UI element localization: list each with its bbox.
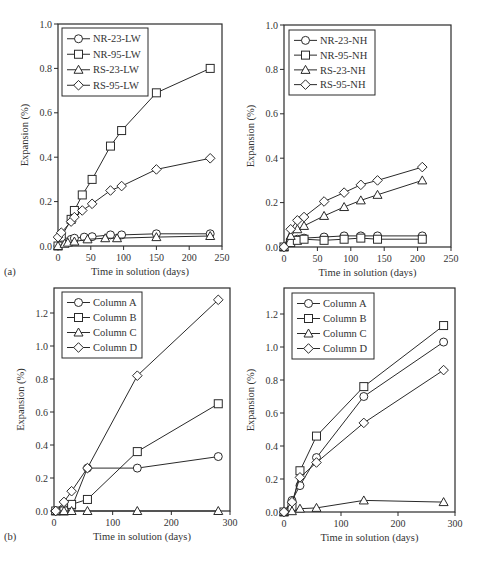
circle-marker-icon — [302, 36, 310, 44]
triangle-marker-icon — [300, 221, 309, 229]
y-tick-label: 0.0 — [266, 242, 279, 253]
y-tick-label: 0.2 — [266, 197, 279, 208]
diamond-marker-icon — [87, 199, 97, 209]
circle-marker-icon — [75, 299, 83, 307]
legend-label: Column A — [93, 297, 137, 308]
x-tick-label: 50 — [312, 253, 322, 264]
diamond-marker-icon — [339, 188, 349, 198]
y-tick-label: 0.8 — [40, 63, 53, 74]
x-tick-label: 150 — [377, 253, 392, 264]
legend-label: Column A — [323, 298, 367, 309]
x-tick-label: 100 — [343, 253, 358, 264]
square-marker-icon — [78, 191, 86, 199]
x-tick-label: 300 — [448, 518, 463, 529]
y-tick-label: 0.2 — [36, 473, 49, 484]
figure: 0.00.20.40.60.81.0050100150200250Time in… — [0, 0, 477, 563]
circle-marker-icon — [360, 393, 368, 401]
diamond-marker-icon — [319, 197, 329, 207]
legend-label: RS-95-LW — [93, 80, 139, 91]
y-tick-label: 0.0 — [40, 241, 53, 252]
y-tick-label: 0.4 — [266, 441, 279, 452]
x-axis-title: Time in solution (days) — [321, 532, 419, 544]
x-tick-label: 50 — [86, 252, 96, 263]
y-tick-label: 0.0 — [266, 507, 279, 518]
diamond-marker-icon — [83, 463, 93, 473]
triangle-marker-icon — [320, 211, 329, 219]
y-axis-title: Expansion (%) — [245, 104, 257, 167]
diamond-marker-icon — [356, 180, 366, 190]
legend-label: Column D — [323, 343, 367, 354]
y-tick-label: 0.6 — [266, 408, 279, 419]
diamond-marker-icon — [152, 165, 162, 175]
legend-label: NR-95-LW — [93, 49, 141, 60]
y-tick-label: 1.2 — [36, 308, 49, 319]
chart-panel-b-left: 0.00.20.40.60.81.01.20100200300Time in s… — [4, 288, 238, 543]
legend-label: RS-23-NH — [320, 65, 366, 76]
diamond-marker-icon — [373, 176, 383, 186]
square-marker-icon — [300, 235, 308, 243]
series-line-column-b — [56, 404, 219, 511]
x-axis-title: Time in solution (days) — [91, 266, 189, 278]
y-tick-label: 1.0 — [36, 341, 49, 352]
diamond-marker-icon — [117, 181, 127, 191]
chart-panel-a-left: 0.00.20.40.60.81.0050100150200250Time in… — [4, 19, 230, 279]
x-tick-label: 100 — [105, 517, 120, 528]
chart-panel-b-right: 0.00.20.40.60.81.01.20100200300Time in s… — [245, 288, 463, 544]
x-tick-label: 200 — [164, 517, 179, 528]
y-tick-label: 0.4 — [36, 440, 49, 451]
circle-marker-icon — [75, 35, 83, 43]
x-tick-label: 200 — [410, 253, 425, 264]
circle-marker-icon — [214, 453, 222, 461]
circle-marker-icon — [305, 300, 313, 308]
square-marker-icon — [214, 400, 222, 408]
y-tick-label: 0.6 — [40, 107, 53, 118]
triangle-marker-icon — [373, 190, 382, 198]
square-marker-icon — [88, 175, 96, 183]
x-tick-label: 0 — [56, 252, 61, 263]
y-tick-label: 0.4 — [40, 152, 53, 163]
x-tick-label: 250 — [444, 253, 459, 264]
square-marker-icon — [133, 448, 141, 456]
square-marker-icon — [302, 51, 310, 59]
legend-label: NR-23-LW — [93, 33, 141, 44]
square-marker-icon — [312, 432, 320, 440]
square-marker-icon — [118, 127, 126, 135]
circle-marker-icon — [440, 338, 448, 346]
y-axis-title: Expansion (%) — [15, 368, 27, 431]
diamond-marker-icon — [439, 365, 449, 375]
x-axis-title: Time in solution (days) — [93, 531, 191, 543]
chart-panel-a-right: 0.00.20.40.60.81.0050100150200250Time in… — [245, 20, 459, 280]
legend-label: RS-95-NH — [320, 79, 366, 90]
square-marker-icon — [206, 64, 214, 72]
y-tick-label: 0.2 — [40, 196, 53, 207]
legend-label: Column B — [93, 312, 136, 323]
square-marker-icon — [374, 235, 382, 243]
y-tick-label: 0.6 — [36, 407, 49, 418]
square-marker-icon — [83, 495, 91, 503]
square-marker-icon — [305, 315, 313, 323]
square-marker-icon — [340, 235, 348, 243]
legend-label: Column B — [323, 313, 366, 324]
diamond-marker-icon — [205, 154, 215, 164]
series-line-column-d — [284, 370, 444, 512]
square-marker-icon — [418, 235, 426, 243]
y-tick-label: 1.0 — [266, 342, 279, 353]
x-tick-label: 0 — [282, 253, 287, 264]
triangle-marker-icon — [359, 496, 368, 504]
x-tick-label: 0 — [282, 518, 287, 529]
diamond-marker-icon — [106, 186, 116, 196]
triangle-marker-icon — [418, 176, 427, 184]
y-tick-label: 0.0 — [36, 506, 49, 517]
legend-label: Column C — [323, 328, 366, 339]
y-tick-label: 0.8 — [36, 374, 49, 385]
square-marker-icon — [75, 50, 83, 58]
triangle-marker-icon — [340, 203, 349, 211]
y-tick-label: 0.8 — [266, 375, 279, 386]
circle-marker-icon — [133, 464, 141, 472]
x-tick-label: 200 — [391, 518, 406, 529]
y-tick-label: 0.6 — [266, 108, 279, 119]
square-marker-icon — [440, 322, 448, 330]
x-tick-label: 150 — [149, 252, 164, 263]
square-marker-icon — [320, 236, 328, 244]
y-tick-label: 0.4 — [266, 153, 279, 164]
